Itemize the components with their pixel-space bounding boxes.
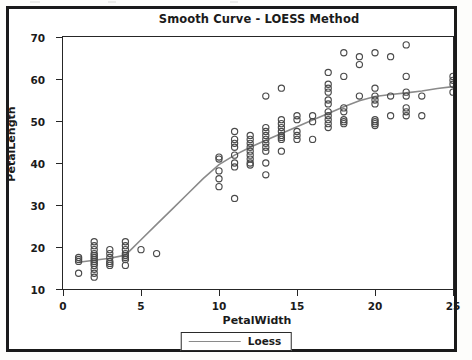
data-point [419, 113, 425, 119]
data-point [91, 274, 97, 280]
y-tick-label: 40 [30, 158, 45, 170]
y-tick-40: 40 [56, 163, 63, 164]
data-point [247, 152, 253, 158]
x-tick-10 [219, 289, 220, 296]
data-point [372, 101, 378, 107]
data-point [278, 117, 284, 123]
y-tick-20: 20 [56, 247, 63, 248]
y-tick-10: 10 [56, 289, 63, 290]
data-point [278, 85, 284, 91]
data-point [356, 93, 362, 99]
x-tick-25 [453, 289, 454, 296]
data-point [232, 128, 238, 134]
data-point [310, 136, 316, 142]
data-point [232, 160, 238, 166]
data-point [341, 50, 347, 56]
y-tick-50: 50 [56, 121, 63, 122]
data-point [263, 93, 269, 99]
y-tick-label: 30 [30, 200, 45, 212]
data-point [403, 113, 409, 119]
data-point [310, 113, 316, 119]
x-tick-15 [297, 289, 298, 296]
x-tick-0 [63, 289, 64, 296]
data-point [325, 124, 331, 130]
x-tick-label: 25 [446, 300, 461, 312]
data-point [278, 148, 284, 154]
data-point [325, 101, 331, 107]
data-point [403, 42, 409, 48]
x-tick-label: 0 [59, 300, 66, 312]
data-point [403, 93, 409, 99]
legend-line-swatch [189, 341, 241, 342]
plot-svg [63, 37, 453, 289]
y-tick-label: 20 [30, 242, 45, 254]
y-tick-label: 70 [30, 32, 45, 44]
data-point [372, 85, 378, 91]
data-point [294, 117, 300, 123]
data-point [372, 50, 378, 56]
data-point [341, 73, 347, 79]
chart-title: Smooth Curve - LOESS Method [60, 12, 458, 26]
loess-curve [79, 87, 453, 263]
data-point [294, 136, 300, 142]
data-point [356, 61, 362, 67]
x-tick-5 [141, 289, 142, 296]
plot-area: 70 60 50 40 30 20 10 0 5 10 15 20 25 [62, 36, 454, 290]
data-point [247, 132, 253, 138]
y-tick-60: 60 [56, 79, 63, 80]
x-tick-label: 10 [212, 300, 227, 312]
y-tick-70: 70 [56, 37, 63, 38]
data-point [216, 168, 222, 174]
y-tick-30: 30 [56, 205, 63, 206]
x-axis-label: PetalWidth [62, 314, 452, 327]
x-tick-20 [375, 289, 376, 296]
data-point [419, 93, 425, 99]
data-point [450, 89, 453, 95]
data-point [388, 113, 394, 119]
data-point [263, 148, 269, 154]
data-point [356, 54, 362, 60]
data-point [232, 144, 238, 150]
data-point [388, 54, 394, 60]
data-point [154, 250, 160, 256]
data-point [216, 176, 222, 182]
data-point [122, 262, 128, 268]
y-tick-label: 60 [30, 74, 45, 86]
x-tick-label: 20 [368, 300, 383, 312]
chart: Smooth Curve - LOESS Method PetalLength … [0, 0, 472, 360]
data-point [325, 89, 331, 95]
data-point [403, 73, 409, 79]
data-point [216, 184, 222, 190]
y-tick-label: 50 [30, 116, 45, 128]
data-point [263, 172, 269, 178]
x-tick-label: 5 [137, 300, 144, 312]
legend-label: Loess [248, 335, 282, 347]
y-tick-label: 10 [30, 284, 45, 296]
data-point [325, 69, 331, 75]
data-point [263, 160, 269, 166]
y-axis-label: PetalLength [5, 106, 18, 181]
data-point [76, 270, 82, 276]
x-tick-label: 15 [290, 300, 305, 312]
legend: Loess [181, 332, 292, 351]
data-point [232, 195, 238, 201]
data-point [138, 247, 144, 253]
data-point [341, 109, 347, 115]
